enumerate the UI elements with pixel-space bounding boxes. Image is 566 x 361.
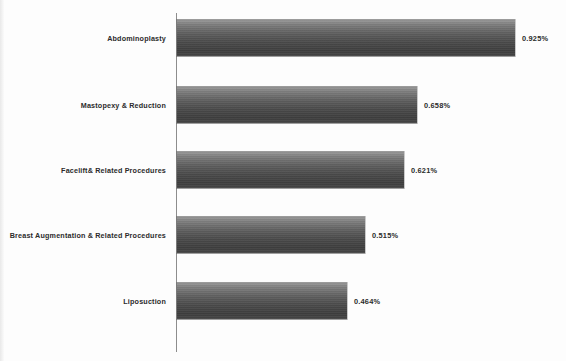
bar-chart: Abdominoplasty 0.925% Mastopexy & Reduct… — [0, 0, 566, 361]
bar-value-label: 0.621% — [411, 165, 437, 174]
bar-row: Breast Augmentation & Related Procedures… — [0, 202, 566, 267]
bar-breast-augmentation-related-procedures[interactable] — [177, 216, 365, 253]
bar-category-label: Abdominoplasty — [0, 33, 166, 42]
bar-category-label: Liposuction — [0, 296, 166, 305]
bar-liposuction[interactable] — [177, 282, 347, 319]
bar-row: Facelift& Related Procedures 0.621% — [0, 137, 566, 202]
bar-facelift-related-procedures[interactable] — [177, 151, 404, 188]
bar-row: Liposuction 0.464% — [0, 268, 566, 333]
bar-row: Mastopexy & Reduction 0.658% — [0, 72, 566, 137]
bar-category-label: Mastopexy & Reduction — [0, 100, 166, 109]
bar-category-label: Breast Augmentation & Related Procedures — [0, 230, 166, 239]
plot-area: Abdominoplasty 0.925% Mastopexy & Reduct… — [0, 0, 566, 361]
bar-row: Abdominoplasty 0.925% — [0, 5, 566, 70]
bar-value-label: 0.515% — [372, 230, 398, 239]
bar-mastopexy-reduction[interactable] — [177, 86, 417, 123]
bar-abdominoplasty[interactable] — [177, 19, 515, 56]
bar-category-label: Facelift& Related Procedures — [0, 165, 166, 174]
bar-value-label: 0.925% — [522, 33, 548, 42]
bar-value-label: 0.464% — [354, 296, 380, 305]
bar-value-label: 0.658% — [424, 100, 450, 109]
